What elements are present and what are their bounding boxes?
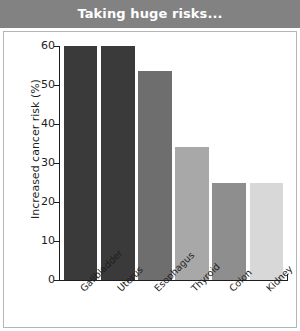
y-tick-label: 0 — [48, 273, 55, 286]
x-axis-cap-left — [59, 274, 60, 281]
bar — [138, 46, 172, 280]
plot-area: 0102030405060 GallbladderUterusEsophagus… — [59, 46, 288, 280]
chart-figure: Taking huge risks... Increased cancer ri… — [0, 0, 300, 331]
bar-rect — [138, 71, 172, 280]
bar — [175, 46, 209, 280]
bar — [101, 46, 135, 280]
bar-rect — [64, 46, 98, 280]
y-axis-line — [59, 46, 60, 280]
y-tick-label: 10 — [41, 234, 55, 247]
y-tick-label: 20 — [41, 195, 55, 208]
bar-rect — [250, 183, 284, 281]
y-tick-label: 40 — [41, 117, 55, 130]
bar — [64, 46, 98, 280]
chart-title: Taking huge risks... — [0, 0, 300, 28]
y-tick-label: 60 — [41, 39, 55, 52]
chart-title-bar: Taking huge risks... — [0, 0, 300, 28]
bar — [212, 46, 246, 280]
bar — [250, 46, 284, 280]
bar-rect — [101, 46, 135, 280]
y-tick-label: 30 — [41, 156, 55, 169]
y-tick-label: 50 — [41, 78, 55, 91]
chart-panel: Increased cancer risk (%) 0102030405060 … — [3, 31, 297, 328]
